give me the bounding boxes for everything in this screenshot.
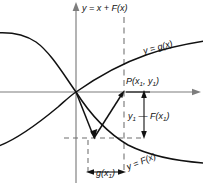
curve-F-label: y = F(x) xyxy=(124,151,157,172)
point-P-label: P(x1, y1) xyxy=(126,76,159,87)
y-axis-arrowhead xyxy=(73,2,80,11)
point-P-label-text: P(x1, y1) xyxy=(126,76,159,87)
vertical-measure-label-text: y1 — F(x1) xyxy=(127,111,169,122)
math-diagram: y = x + F(x) y = g(x) y = F(x) P(x1, y1)… xyxy=(0,0,203,183)
iteration-path-group xyxy=(76,91,125,140)
horizontal-measure-label-text: g(x1) xyxy=(96,168,115,179)
curve-g-label: y = g(x) xyxy=(141,38,174,56)
curve-F-label-text: y = F(x) xyxy=(124,151,157,172)
horizontal-measure-arrowhead-right xyxy=(118,169,126,174)
axis-title-label: y = x + F(x) xyxy=(81,3,128,13)
iteration-segment-up xyxy=(94,94,122,138)
vertical-measure-arrowhead-bottom xyxy=(141,131,147,139)
curve-g-of-x xyxy=(0,41,203,147)
axes-group xyxy=(0,2,201,183)
x-axis-arrowhead xyxy=(192,89,201,96)
figure-container: y = x + F(x) y = g(x) y = F(x) P(x1, y1)… xyxy=(0,0,203,183)
horizontal-measure-label: g(x1) xyxy=(96,168,115,179)
vertical-measure-arrowhead-top xyxy=(141,90,147,98)
curve-F-of-x xyxy=(0,33,203,163)
curve-g-label-text: y = g(x) xyxy=(141,38,174,56)
iteration-segment-down xyxy=(76,92,93,135)
horizontal-measure-arrowhead-left xyxy=(86,169,94,174)
vertical-measure-label: y1 — F(x1) xyxy=(127,111,169,122)
